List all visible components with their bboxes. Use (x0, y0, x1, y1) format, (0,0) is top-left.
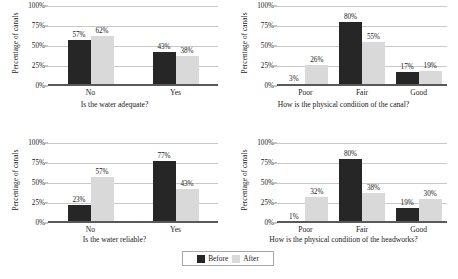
bar-group: 19%30% (390, 143, 447, 223)
x-axis-tick-label: Good (390, 88, 447, 97)
x-axis-labels: PoorFairGood (277, 225, 447, 234)
bar-value-label: 43% (180, 180, 193, 188)
bar-after[interactable]: 62% (91, 36, 114, 86)
y-axis-tick-label: 75% (32, 22, 45, 30)
bar-group: 77%43% (133, 143, 218, 223)
y-axis-title: Percentage of canals (10, 0, 22, 86)
y-axis-tick-label: 50% (261, 42, 274, 50)
bar-after[interactable]: 38% (176, 56, 199, 86)
bar-groups: 23%57%77%43% (48, 143, 218, 223)
x-axis-tick-label: Fair (334, 88, 391, 97)
y-axis-tick-label: 0% (264, 219, 274, 227)
bar-after[interactable]: 55% (362, 42, 385, 86)
bar-value-label: 77% (157, 152, 170, 160)
y-axis-tick-label: 25% (32, 62, 45, 70)
bar-group: 17%19% (390, 6, 447, 86)
bar-value-label: 19% (401, 199, 414, 207)
x-axis-tick-label: Poor (277, 225, 334, 234)
y-axis-tick-label: 50% (32, 179, 45, 187)
y-axis-ticks: 0%25%50%75%100% (22, 6, 48, 86)
y-axis-tick-label: 0% (35, 219, 45, 227)
y-axis-title: Percentage of canals (239, 137, 251, 223)
bar-group: 43%38% (133, 6, 218, 86)
x-axis-tick-label: Yes (133, 88, 218, 97)
x-axis-title: How is the physical condition of the hea… (229, 235, 458, 244)
y-axis-tick-label: 100% (257, 2, 274, 10)
y-axis-ticks: 0%25%50%75%100% (22, 143, 48, 223)
bar-before[interactable]: 43% (153, 52, 176, 86)
bar-value-label: 23% (72, 196, 85, 204)
x-axis-tick-label: No (48, 88, 133, 97)
x-axis-labels: NoYes (48, 225, 218, 234)
y-axis-tick-label: 25% (261, 62, 274, 70)
legend-item-after: After (232, 254, 259, 263)
bar-after[interactable]: 57% (91, 177, 114, 223)
y-axis-tick-label: 50% (261, 179, 274, 187)
y-axis-tick-label: 0% (264, 82, 274, 90)
bar-value-label: 80% (344, 150, 357, 158)
plot-area-wrapper: 0%25%50%75%100% 3%26%80%55%17%19% PoorFa… (251, 6, 447, 86)
panel-canal-condition: Percentage of canals 0%25%50%75%100% 3%2… (229, 0, 458, 135)
bar-value-label: 62% (95, 27, 108, 35)
plot-area: 3%26%80%55%17%19% (277, 6, 447, 86)
panel-water-reliable: Percentage of canals 0%25%50%75%100% 23%… (0, 135, 229, 248)
plot-area-wrapper: 0%25%50%75%100% 1%32%80%38%19%30% PoorFa… (251, 143, 447, 223)
plot-area: 57%62%43%38% (48, 6, 218, 86)
x-axis-tick-label: Poor (277, 88, 334, 97)
bar-value-label: 57% (72, 31, 85, 39)
x-axis-title: Is the water adequate? (0, 100, 229, 109)
chart-legend: Before After (182, 251, 274, 266)
bar-before[interactable]: 23% (68, 205, 91, 223)
x-axis-line (277, 84, 447, 86)
bar-after[interactable]: 43% (176, 189, 199, 223)
bar-value-label: 55% (367, 33, 380, 41)
y-axis-title: Percentage of canals (10, 137, 22, 223)
y-axis-tick-label: 100% (28, 139, 45, 147)
bar-after[interactable]: 32% (305, 197, 328, 223)
x-axis-tick-label: Yes (133, 225, 218, 234)
y-axis-tick-label: 50% (32, 42, 45, 50)
plot-area-wrapper: 0%25%50%75%100% 57%62%43%38% NoYes (22, 6, 218, 86)
x-axis-labels: NoYes (48, 88, 218, 97)
x-axis-line (277, 221, 447, 223)
bar-groups: 57%62%43%38% (48, 6, 218, 86)
x-axis-title: Is the water reliable? (0, 235, 229, 244)
bar-group: 23%57% (48, 143, 133, 223)
x-axis-line (48, 84, 218, 86)
plot-area: 23%57%77%43% (48, 143, 218, 223)
bar-after[interactable]: 30% (419, 199, 442, 223)
bar-group: 80%38% (334, 143, 391, 223)
y-axis-ticks: 0%25%50%75%100% (251, 143, 277, 223)
after-swatch-icon (232, 255, 240, 263)
panel-grid: Percentage of canals 0%25%50%75%100% 57%… (0, 0, 458, 248)
bar-group: 1%32% (277, 143, 334, 223)
bar-value-label: 1% (289, 213, 299, 221)
bar-value-label: 17% (401, 63, 414, 71)
bar-value-label: 26% (310, 56, 323, 64)
x-axis-tick-label: No (48, 225, 133, 234)
y-axis-tick-label: 75% (32, 159, 45, 167)
bar-after[interactable]: 26% (305, 65, 328, 86)
bar-before[interactable]: 77% (153, 161, 176, 223)
plot-area: 1%32%80%38%19%30% (277, 143, 447, 223)
y-axis-ticks: 0%25%50%75%100% (251, 6, 277, 86)
y-axis-tick-label: 100% (257, 139, 274, 147)
legend-label-before: Before (208, 254, 228, 263)
x-axis-title: How is the physical condition of the can… (229, 100, 458, 109)
bar-value-label: 38% (180, 47, 193, 55)
bar-value-label: 38% (367, 184, 380, 192)
bar-value-label: 3% (289, 75, 299, 83)
bar-before[interactable]: 80% (339, 159, 362, 223)
bar-after[interactable]: 38% (362, 193, 385, 223)
x-axis-tick-label: Fair (334, 225, 391, 234)
panel-water-adequate: Percentage of canals 0%25%50%75%100% 57%… (0, 0, 229, 135)
y-axis-tick-label: 100% (28, 2, 45, 10)
bar-value-label: 19% (424, 62, 437, 70)
plot-area-wrapper: 0%25%50%75%100% 23%57%77%43% NoYes (22, 143, 218, 223)
bar-before[interactable]: 80% (339, 22, 362, 86)
x-axis-line (48, 221, 218, 223)
before-swatch-icon (197, 255, 205, 263)
y-axis-tick-label: 75% (261, 22, 274, 30)
bar-before[interactable]: 57% (68, 40, 91, 86)
figure-multi-panel-bar-charts: Percentage of canals 0%25%50%75%100% 57%… (0, 0, 458, 279)
